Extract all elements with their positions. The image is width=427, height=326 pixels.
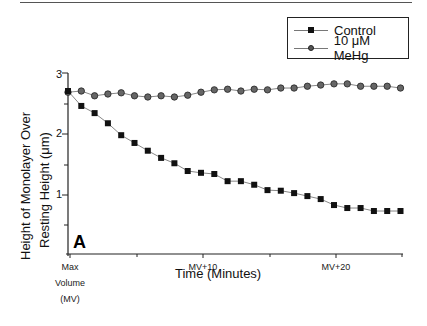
mehg-data-point <box>357 83 363 89</box>
x-tick-label-max: Max <box>58 262 82 272</box>
mehg-data-point <box>318 82 324 88</box>
control-data-point <box>158 155 164 161</box>
control-data-point <box>65 88 71 94</box>
control-data-point <box>78 103 84 109</box>
control-data-point <box>132 140 138 146</box>
mehg-data-point <box>118 90 124 96</box>
x-axis-title: Time (Minutes) <box>175 266 261 281</box>
mehg-data-point <box>384 83 390 89</box>
control-data-point <box>225 178 231 184</box>
control-data-point <box>171 160 177 166</box>
mehg-data-point <box>264 87 270 93</box>
control-data-point <box>251 182 257 188</box>
control-data-point <box>371 208 377 214</box>
control-data-point <box>185 168 191 174</box>
control-data-point <box>118 132 124 138</box>
control-data-point <box>398 208 404 214</box>
mehg-data-point <box>224 86 230 92</box>
x-tick-label-mv20: MV+20 <box>316 262 356 272</box>
mehg-data-point <box>198 89 204 95</box>
control-data-point <box>291 190 297 196</box>
mehg-data-point <box>171 94 177 100</box>
x-tick-label-mv: (MV) <box>54 294 86 304</box>
x-tick-label-volume: Volume <box>48 278 92 288</box>
control-data-point <box>278 188 284 194</box>
mehg-data-point <box>131 93 137 99</box>
mehg-data-point <box>145 94 151 100</box>
series-mehg <box>65 81 404 101</box>
control-data-point <box>344 205 350 211</box>
mehg-data-point <box>397 85 403 91</box>
mehg-data-point <box>371 83 377 89</box>
mehg-data-point <box>291 85 297 91</box>
control-data-point <box>211 171 217 177</box>
control-data-point <box>265 187 271 193</box>
control-data-point <box>318 196 324 202</box>
control-data-point <box>198 170 204 176</box>
mehg-data-point <box>251 86 257 92</box>
mehg-data-point <box>185 92 191 98</box>
mehg-data-point <box>304 83 310 89</box>
control-data-point <box>105 120 111 126</box>
control-data-point <box>331 202 337 208</box>
mehg-data-point <box>238 88 244 94</box>
mehg-data-point <box>158 93 164 99</box>
mehg-data-point <box>105 91 111 97</box>
mehg-data-point <box>278 85 284 91</box>
mehg-data-point <box>78 88 84 94</box>
mehg-data-point <box>91 93 97 99</box>
mehg-data-point <box>344 81 350 87</box>
control-data-point <box>145 148 151 154</box>
control-data-point <box>92 110 98 116</box>
mehg-data-point <box>331 81 337 87</box>
mehg-data-point <box>211 87 217 93</box>
control-data-point <box>238 178 244 184</box>
control-data-point <box>384 208 390 214</box>
series-control <box>65 88 404 214</box>
control-data-point <box>358 205 364 211</box>
control-data-point <box>304 193 310 199</box>
